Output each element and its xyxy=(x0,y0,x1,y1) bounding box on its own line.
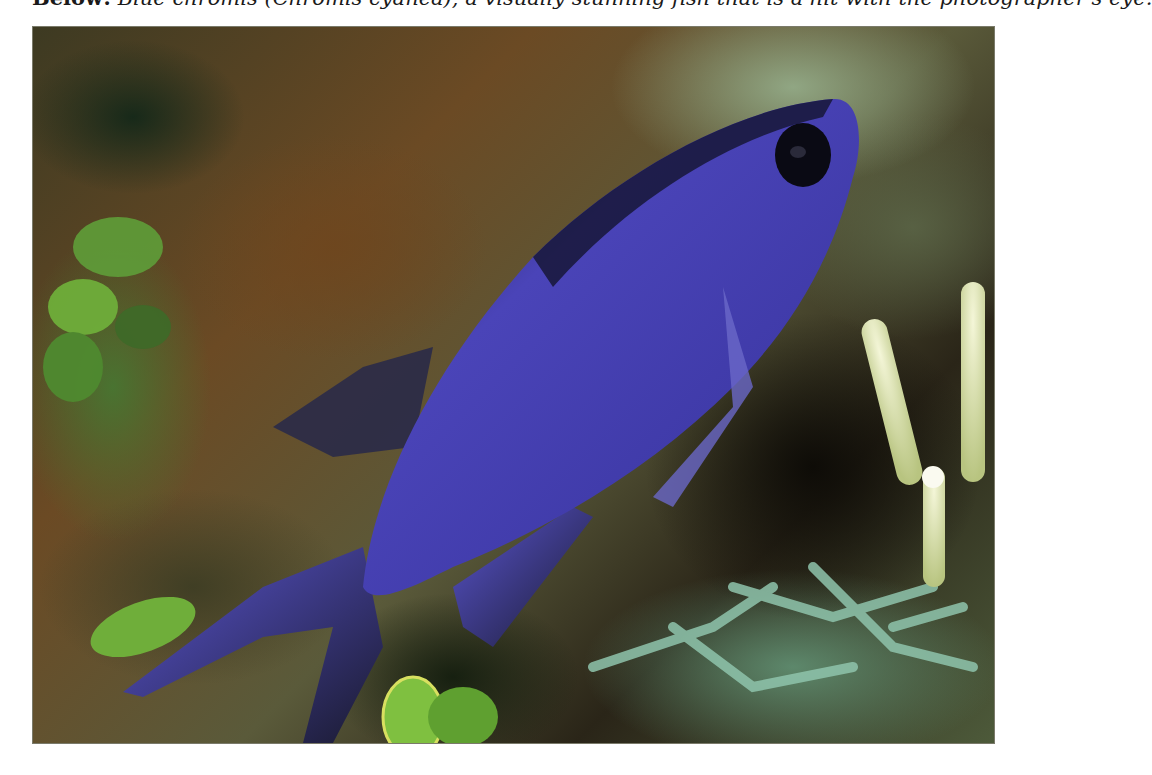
green-algae-left xyxy=(43,217,171,402)
finger-sponges xyxy=(859,282,985,587)
photo-illustration xyxy=(33,27,994,743)
photo-caption: Below: Blue chromis (Chromis cyanea), a … xyxy=(32,0,1002,10)
caption-label: Below: xyxy=(32,0,111,10)
caption-text: Blue chromis (Chromis cyanea), a visuall… xyxy=(118,0,1152,10)
teal-seaweed xyxy=(593,567,973,687)
blue-chromis-fish xyxy=(123,99,859,743)
fish-photo xyxy=(32,26,995,744)
